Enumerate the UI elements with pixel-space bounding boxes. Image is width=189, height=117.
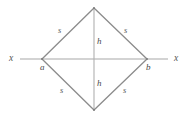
height-label-lower: h: [97, 79, 102, 88]
axis-label-left: x: [9, 54, 13, 63]
rhombus-diagram: x x a b s s s s h h: [0, 0, 189, 117]
vertex-bottom-point: [93, 109, 95, 111]
vertex-top-point: [93, 7, 95, 9]
axis-label-right: x: [174, 54, 178, 63]
geometry-canvas: [0, 0, 189, 117]
side-label-bottom-right: s: [123, 86, 126, 95]
vertex-label-a: a: [40, 63, 45, 72]
side-label-bottom-left: s: [60, 86, 63, 95]
vertex-label-b: b: [146, 63, 151, 72]
side-label-top-left: s: [58, 26, 61, 35]
vertex-b-point: [146, 58, 148, 60]
height-label-upper: h: [97, 37, 102, 46]
vertex-a-point: [41, 58, 43, 60]
side-label-top-right: s: [124, 26, 127, 35]
